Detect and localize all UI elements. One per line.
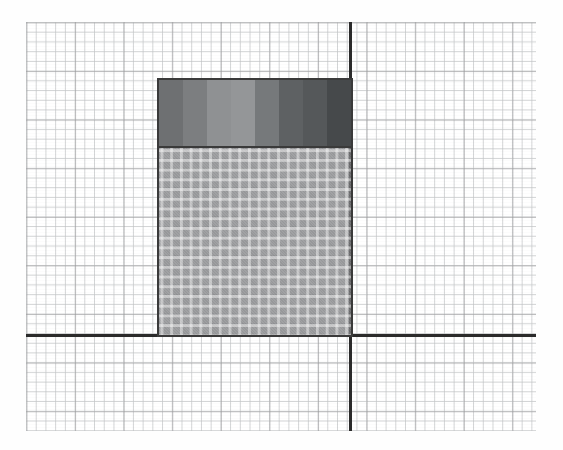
figure-canvas (0, 0, 563, 450)
bar-lower-hatched-segment (159, 148, 351, 335)
bar-band-6 (279, 80, 303, 146)
bar-grain-overlay (159, 148, 351, 335)
bar-band-5 (255, 80, 279, 146)
bar-band-8 (327, 80, 351, 146)
bar-band-1 (159, 80, 183, 146)
bar-upper-banded-segment (159, 80, 351, 148)
bar-band-3 (207, 80, 231, 146)
bar-band-7 (303, 80, 327, 146)
bar-band-2 (183, 80, 207, 146)
bar-shape (157, 78, 353, 337)
bar-band-4 (231, 80, 255, 146)
